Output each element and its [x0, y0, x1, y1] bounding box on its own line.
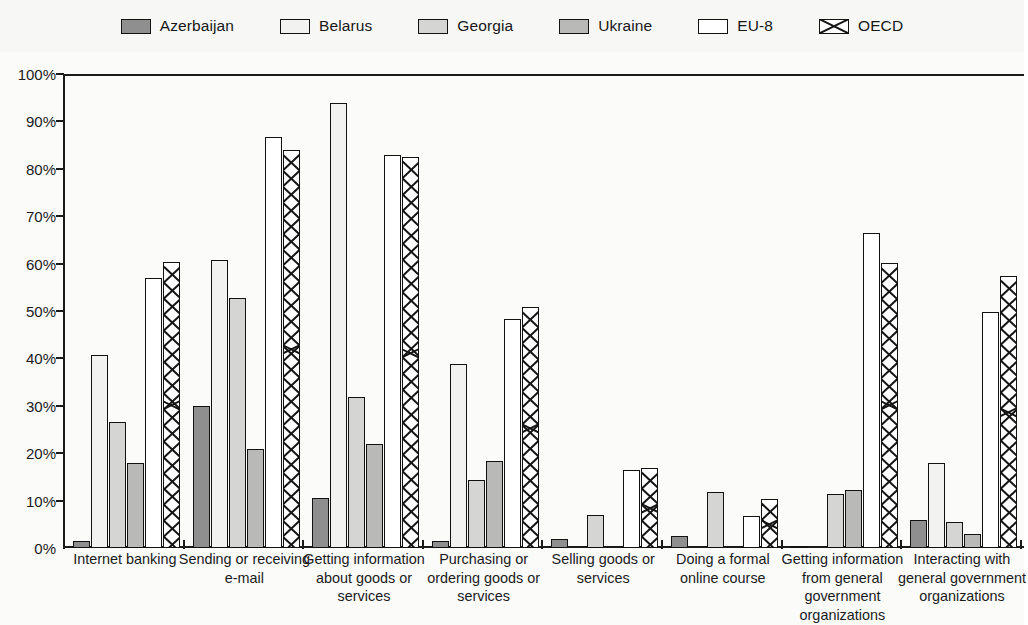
bar-group	[551, 74, 658, 548]
legend-item-eu-8[interactable]: EU-8	[698, 17, 773, 35]
bar-azerbaijan[interactable]	[551, 539, 568, 548]
bar-azerbaijan[interactable]	[910, 520, 927, 548]
bar-eu-8[interactable]	[623, 470, 640, 548]
bar-eu-8[interactable]	[145, 278, 162, 548]
plot-area: 0%10%20%30%40%50%60%70%80%90%100% Intern…	[0, 52, 1024, 625]
bar-eu-8[interactable]	[504, 319, 521, 548]
x-axis-label: Selling goods or services	[537, 550, 669, 587]
y-axis-tick-mark	[56, 500, 64, 502]
legend-item-azerbaijan[interactable]: Azerbaijan	[121, 17, 234, 35]
bar-ukraine[interactable]	[127, 463, 144, 548]
bar-azerbaijan[interactable]	[312, 498, 329, 548]
bar-georgia[interactable]	[109, 422, 126, 548]
legend-swatch-georgia	[418, 19, 448, 34]
x-axis-tick-mark	[63, 540, 65, 549]
y-axis-tick-label: 100%	[18, 66, 56, 83]
y-axis-tick-mark	[56, 310, 64, 312]
x-axis-label: Sending or receiving e-mail	[179, 550, 311, 587]
y-axis-tick-label: 40%	[26, 350, 56, 367]
legend-swatch-azerbaijan	[121, 19, 151, 34]
bar-oecd[interactable]	[761, 499, 778, 548]
bar-eu-8[interactable]	[863, 233, 880, 548]
bar-ukraine[interactable]	[964, 534, 981, 548]
bar-ukraine[interactable]	[845, 490, 862, 548]
bar-belarus[interactable]	[450, 364, 467, 548]
bar-group	[193, 74, 300, 548]
y-axis-tick-label: 60%	[26, 255, 56, 272]
x-axis-tick-mark	[541, 540, 543, 549]
y-axis-tick-label: 70%	[26, 208, 56, 225]
bar-azerbaijan[interactable]	[791, 546, 808, 548]
bar-azerbaijan[interactable]	[671, 536, 688, 548]
legend-label: Azerbaijan	[160, 17, 234, 35]
bar-oecd[interactable]	[402, 157, 419, 548]
x-axis-label: Internet banking	[59, 550, 191, 569]
y-axis-tick-label: 30%	[26, 397, 56, 414]
bar-georgia[interactable]	[827, 494, 844, 548]
legend-label: OECD	[858, 17, 903, 35]
y-axis-tick-mark	[56, 73, 64, 75]
legend-item-oecd[interactable]: OECD	[819, 17, 903, 35]
y-axis-tick-label: 80%	[26, 160, 56, 177]
bar-belarus[interactable]	[330, 103, 347, 548]
chart-legend: AzerbaijanBelarusGeorgiaUkraineEU-8OECD	[0, 0, 1024, 52]
x-axis-tick-mark	[661, 540, 663, 549]
bar-belarus[interactable]	[91, 355, 108, 548]
bar-oecd[interactable]	[283, 150, 300, 548]
bar-eu-8[interactable]	[265, 137, 282, 548]
bar-georgia[interactable]	[229, 298, 246, 548]
legend-swatch-ukraine	[559, 19, 589, 34]
bar-group	[432, 74, 539, 548]
y-axis-tick-mark	[56, 263, 64, 265]
bars-layer	[65, 74, 1022, 548]
legend-item-belarus[interactable]: Belarus	[280, 17, 372, 35]
bar-azerbaijan[interactable]	[73, 541, 90, 548]
legend-label: Belarus	[319, 17, 372, 35]
bar-eu-8[interactable]	[384, 155, 401, 548]
x-axis-tick-mark	[781, 540, 783, 549]
bar-oecd[interactable]	[522, 307, 539, 548]
legend-label: EU-8	[737, 17, 773, 35]
bar-ukraine[interactable]	[486, 461, 503, 548]
legend-label: Ukraine	[598, 17, 652, 35]
bar-eu-8[interactable]	[982, 312, 999, 548]
x-axis-label: Purchasing or ordering goods or services	[418, 550, 550, 606]
y-axis-tick-mark	[56, 357, 64, 359]
bar-georgia[interactable]	[468, 480, 485, 548]
bar-georgia[interactable]	[348, 397, 365, 548]
x-axis-label: Interacting with general government orga…	[896, 550, 1028, 606]
bar-belarus[interactable]	[928, 463, 945, 548]
bar-group	[312, 74, 419, 548]
x-axis-label: Getting information about goods or servi…	[298, 550, 430, 606]
bar-group	[910, 74, 1017, 548]
bar-oecd[interactable]	[1000, 276, 1017, 548]
bar-oecd[interactable]	[163, 262, 180, 548]
bar-georgia[interactable]	[707, 492, 724, 548]
y-axis-tick-label: 10%	[26, 492, 56, 509]
y-axis-tick-mark	[56, 120, 64, 122]
legend-swatch-oecd	[819, 19, 849, 34]
bar-oecd[interactable]	[881, 263, 898, 548]
bar-ukraine[interactable]	[366, 444, 383, 548]
y-axis-tick-mark	[56, 452, 64, 454]
bar-group	[73, 74, 180, 548]
x-axis-label: Getting information from general governm…	[777, 550, 909, 624]
bar-georgia[interactable]	[587, 515, 604, 548]
bar-ukraine[interactable]	[247, 449, 264, 548]
bar-georgia[interactable]	[946, 522, 963, 548]
bar-azerbaijan[interactable]	[432, 541, 449, 548]
legend-label: Georgia	[457, 17, 513, 35]
bar-azerbaijan[interactable]	[193, 406, 210, 548]
legend-item-georgia[interactable]: Georgia	[418, 17, 513, 35]
x-axis-tick-mark	[900, 540, 902, 549]
x-axis-tick-mark	[183, 540, 185, 549]
y-axis-tick-mark	[56, 405, 64, 407]
bar-eu-8[interactable]	[743, 516, 760, 548]
x-axis-label: Doing a formal online course	[657, 550, 789, 587]
bar-belarus[interactable]	[211, 260, 228, 548]
x-axis-tick-mark	[1020, 540, 1022, 549]
bar-oecd[interactable]	[641, 468, 658, 548]
legend-item-ukraine[interactable]: Ukraine	[559, 17, 652, 35]
legend-swatch-belarus	[280, 19, 310, 34]
